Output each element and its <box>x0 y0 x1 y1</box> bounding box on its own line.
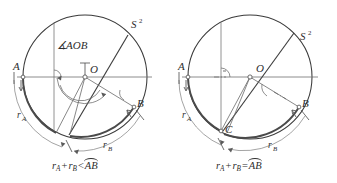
point-label-b: B <box>137 97 144 109</box>
caption-right: rA+rB=AB <box>216 160 262 173</box>
dim-arc-rb-arrow <box>74 150 79 155</box>
arc-overbar <box>248 158 262 163</box>
arc-measure-b <box>70 107 134 137</box>
arc-label-ra-base: r <box>182 110 186 120</box>
arc-measure-a <box>23 77 56 133</box>
dim-arc-rb-tick-end <box>301 110 309 120</box>
diagram-panel-right: A O B C S 2 r A r B <box>168 0 337 155</box>
point-marker-o <box>248 75 252 79</box>
point-label-o: O <box>90 63 98 75</box>
arc-label-rb-base: r <box>268 140 272 150</box>
diagram-panel-left: A O B ∡ AOB S 2 r A r B <box>0 0 168 155</box>
point-label-o: O <box>256 62 264 74</box>
angle-label-aob: AOB <box>65 39 88 51</box>
arc-overbar <box>84 158 98 163</box>
dim-arc-ra-tick-end <box>66 140 72 152</box>
sphere-label: S <box>300 30 306 42</box>
point-marker-b <box>132 105 136 109</box>
dim-arc-rb-tick-end <box>136 110 144 120</box>
point-marker-c <box>219 129 223 133</box>
point-label-a: A <box>177 60 185 72</box>
dim-arc-ra-arrow <box>61 142 66 147</box>
figure-root: A O B ∡ AOB S 2 r A r B <box>0 0 337 183</box>
arc-measure-b <box>224 107 299 138</box>
angle-arc-arrow-start <box>57 76 62 81</box>
point-marker-o <box>83 75 87 79</box>
caption-left-arc-ab: AB <box>85 160 98 171</box>
radius-o-chord-foot <box>70 77 85 134</box>
angle-mark-at-chord <box>54 70 61 77</box>
point-label-a: A <box>12 60 20 72</box>
angle-mark-at-chord <box>221 68 230 77</box>
arc-label-rb-sub: B <box>108 145 112 152</box>
arc-label-ra-sub: A <box>186 115 192 122</box>
point-marker-b <box>297 105 301 109</box>
caption-left: rA+rB<AB <box>52 160 98 173</box>
sphere-exponent: 2 <box>139 17 143 24</box>
point-marker-a <box>21 75 25 79</box>
arc-label-rb-sub: B <box>273 145 277 152</box>
dim-arc-rb <box>74 116 140 151</box>
point-marker-a <box>186 75 190 79</box>
caption-right-arc-ab: AB <box>249 160 262 171</box>
arc-label-ra-base: r <box>17 110 21 120</box>
arc-label-ra-sub: A <box>21 115 27 122</box>
sphere-label: S <box>131 18 137 30</box>
sphere-exponent: 2 <box>308 29 312 36</box>
point-label-b: B <box>302 97 309 109</box>
point-label-c: C <box>225 123 233 135</box>
arc-label-rb-base: r <box>103 140 107 150</box>
